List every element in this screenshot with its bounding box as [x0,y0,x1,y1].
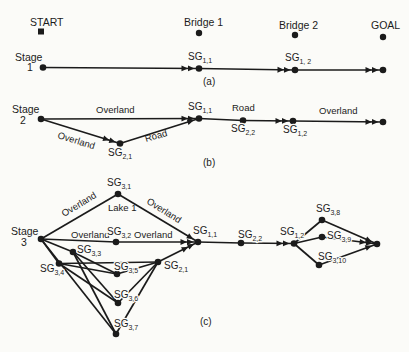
arrowhead-a-sg1-1-a-sg1-2-2 [277,67,284,73]
label-caption-a: (a) [203,76,215,87]
arrowhead-a-sg1-1-a-sg1-2-1 [284,67,291,73]
label-c-sg3-10: SG3,10 [318,251,346,264]
label-b-sg2-1: SG2,1 [108,147,132,160]
arrowhead-a-sg1-2-a-end-1 [372,67,379,73]
label-a-stage-num: 1 [27,61,33,73]
edge-c-sg3-4-c-sg2-1 [59,262,158,264]
label-bridge-2: Bridge 2 [279,19,318,31]
label-a-sg1-2: SG1, 2 [285,52,311,65]
label-b-overland-diag: Overland [56,129,96,151]
label-b-overland-right: Overland [319,105,358,116]
label-start: START [30,16,64,28]
edge-c-sg1-1-c-sg2-2 [198,242,241,243]
node-b-stage2 [38,116,45,123]
label-c-sg1-2: SG1,2 [280,226,304,239]
label-b-road-diag: Road [144,127,169,144]
arrowhead-c-sg3-2-c-sg1-1-2 [181,239,188,245]
arrowhead-b-sg1-2-b-end-1 [372,119,379,125]
label-c-sg1-1: SG1,1 [193,225,217,238]
label-c-stage-num: 3 [21,236,27,248]
node-c-sg3-8 [319,217,326,224]
label-c-overland-h2: Overland [134,229,173,240]
arrowhead-b-sg2-2-b-sg1-2-1 [282,118,289,124]
node-c-end [374,241,381,248]
marker-start-square [38,29,44,35]
arrowhead-b-stage2-b-sg2-1-2 [102,136,109,142]
node-b-end [380,119,387,126]
edge-b-sg1-1-b-sg2-2 [199,119,243,121]
label-c-overland-h1: Overland [71,229,110,240]
label-b-sg1-2: SG1,2 [283,124,307,137]
arrowhead-b-sg2-2-b-sg1-2-2 [275,118,282,124]
label-c-overland-upleft: Overland [59,189,98,218]
node-a-stage1 [40,64,47,71]
label-b-stage-num: 2 [20,114,26,126]
label-b-overland-top: Overland [96,104,135,115]
arrowhead-b-sg2-1-b-sg1-1-1 [187,119,194,125]
label-c-sg2-1: SG2,1 [164,260,188,273]
arrowhead-a-stage1-a-sg1-1-1 [188,66,195,72]
node-c-sg3-2 [113,239,120,246]
label-c-overland-upright: Overland [145,195,184,225]
node-c-sg2-1 [155,259,162,266]
route-planning-figure: STARTBridge 1Bridge 2GOALStage1SG1,1SG1,… [0,0,409,352]
arrowhead-b-sg1-2-b-end-2 [365,119,372,125]
label-caption-b: (b) [203,157,215,168]
label-c-sg3-2: SG3,2 [107,226,131,239]
node-a-end [380,67,387,74]
label-c-sg3-1: SG3,1 [107,177,131,190]
node-c-stage3 [38,236,45,243]
node-c-sg3-7 [113,331,120,338]
node-c-sg2-2 [238,240,245,247]
label-c-sg3-8: SG3,8 [316,203,340,216]
label-goal: GOAL [371,19,400,31]
marker-bridge-1-dot [196,30,202,36]
edge-c-sg1-2-c-sg3-10 [294,244,319,266]
edge-a-stage1-a-sg1-1 [43,68,199,69]
label-c-lake-1: Lake 1 [108,202,137,213]
label-caption-c: (c) [200,316,212,327]
node-c-sg1-1 [195,239,202,246]
node-c-sg3-6 [115,300,122,307]
node-c-sg1-2 [291,240,298,247]
arrowhead-c-sg3-10-c-end-1 [365,245,372,250]
node-b-sg1-1 [196,115,203,122]
label-a-sg1-1: SG1,1 [188,51,212,64]
marker-bridge-2-dot [292,32,298,38]
node-a-sg1-2 [292,67,299,74]
edge-b-stage2-b-sg1-1 [41,119,199,120]
node-b-sg2-1 [117,140,124,147]
label-b-sg1-1: SG1,1 [188,101,212,114]
label-b-sg2-2: SG2,2 [231,123,255,136]
label-bridge-1: Bridge 1 [184,16,223,28]
arrowhead-a-stage1-a-sg1-1-2 [181,65,188,71]
node-c-sg3-4 [56,260,63,267]
arrowhead-a-sg1-2-a-end-2 [366,67,373,73]
node-c-sg3-1 [115,191,122,198]
label-b-road-top: Road [232,102,255,113]
label-c-sg3-7: SG3,7 [114,318,138,331]
diagram-svg: STARTBridge 1Bridge 2GOALStage1SG1,1SG1,… [0,0,409,352]
node-a-sg1-1 [196,65,203,72]
arrowhead-c-sg2-2-c-sg1-2-2 [276,240,283,246]
node-c-sg3-9 [319,234,326,241]
arrowhead-c-sg2-2-c-sg1-2-1 [283,240,290,246]
node-c-sg3-3 [70,249,77,256]
arrowhead-b-stage2-b-sg1-1-2 [181,116,188,122]
node-c-sg3-10 [316,262,323,269]
marker-goal-dot [380,34,386,40]
arrowhead-b-stage2-b-sg2-1-1 [109,137,116,143]
